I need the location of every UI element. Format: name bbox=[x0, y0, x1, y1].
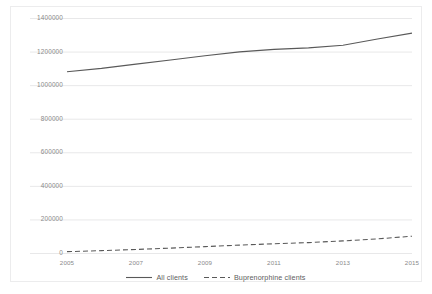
legend-label: Buprenorphine clients bbox=[234, 273, 306, 282]
x-tick-label: 2015 bbox=[392, 259, 432, 267]
series-line-2 bbox=[67, 236, 412, 251]
x-tick-label: 2005 bbox=[47, 259, 87, 267]
solid-line-icon bbox=[126, 274, 152, 281]
y-tick-label: 1200000 bbox=[3, 48, 63, 56]
legend-label: All clients bbox=[156, 273, 187, 282]
plot-area bbox=[0, 0, 432, 294]
dashed-line-icon bbox=[204, 274, 230, 281]
x-tick-label: 2011 bbox=[254, 259, 294, 267]
series-lines-group bbox=[67, 33, 412, 252]
chart-legend: All clientsBuprenorphine clients bbox=[0, 270, 432, 284]
y-tick-label: 1400000 bbox=[3, 14, 63, 22]
y-tick-label: 200000 bbox=[3, 215, 63, 223]
legend-item-1[interactable]: All clients bbox=[126, 273, 187, 282]
x-tick-label: 2013 bbox=[323, 259, 363, 267]
x-tick-label: 2009 bbox=[185, 259, 225, 267]
y-axis-tick-labels: 0200000400000600000800000100000012000001… bbox=[0, 0, 63, 294]
legend-item-2[interactable]: Buprenorphine clients bbox=[204, 273, 306, 282]
y-tick-label: 1000000 bbox=[3, 81, 63, 89]
y-tick-label: 800000 bbox=[3, 115, 63, 123]
x-tick-label: 2007 bbox=[116, 259, 156, 267]
y-tick-label: 0 bbox=[3, 249, 63, 257]
line-chart: 0200000400000600000800000100000012000001… bbox=[0, 0, 432, 294]
y-tick-label: 600000 bbox=[3, 148, 63, 156]
y-tick-label: 400000 bbox=[3, 182, 63, 190]
